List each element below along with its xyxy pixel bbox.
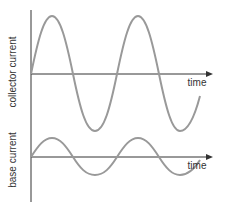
x-axis-label-top: time (188, 77, 207, 88)
x-axis-label-bottom: time (188, 160, 207, 171)
arrow-right-icon (206, 154, 213, 160)
arrow-right-icon (206, 71, 213, 77)
y-axis-label-base: base current (7, 132, 18, 188)
y-axis-label-collector: collector current (7, 36, 18, 107)
transistor-waveform-diagram: time time collector current base current (0, 0, 226, 208)
